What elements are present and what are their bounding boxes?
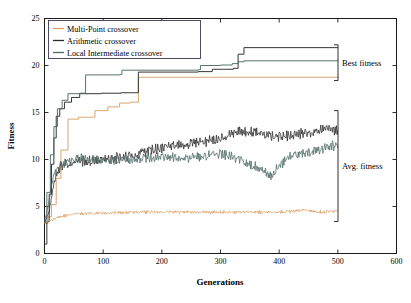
x-tick-label: 500 [332, 257, 344, 266]
y-axis-label: Fitness [6, 122, 16, 149]
x-tick-label: 600 [391, 257, 403, 266]
avg-fitness-label: Avg. fitness [342, 161, 382, 171]
x-tick-label: 200 [156, 257, 168, 266]
y-tick-label: 0 [36, 249, 40, 258]
y-tick-label: 20 [32, 61, 40, 70]
x-tick-label: 0 [43, 257, 47, 266]
y-tick-label: 10 [32, 155, 40, 164]
y-tick-label: 15 [32, 108, 40, 117]
y-tick-label: 25 [32, 14, 40, 23]
x-axis-label: Generations [197, 277, 244, 287]
legend-label-arithmetic[interactable]: Arithmetic crossover [67, 37, 136, 46]
x-tick-label: 100 [97, 257, 109, 266]
x-tick-label: 400 [273, 257, 285, 266]
x-tick-label: 300 [215, 257, 227, 266]
y-tick-label: 5 [36, 202, 40, 211]
best-fitness-label: Best fitness [342, 58, 381, 68]
figure-container: 01002003004005006000510152025 Generation… [0, 0, 411, 303]
legend-label-multi-point[interactable]: Multi-Point crossover [67, 25, 139, 34]
legend-label-local-intermediate[interactable]: Local Intermediate crossover [67, 49, 163, 58]
fitness-vs-generations-chart: 01002003004005006000510152025 Generation… [0, 0, 411, 303]
legend[interactable]: Multi-Point crossover Arithmetic crossov… [49, 21, 201, 59]
